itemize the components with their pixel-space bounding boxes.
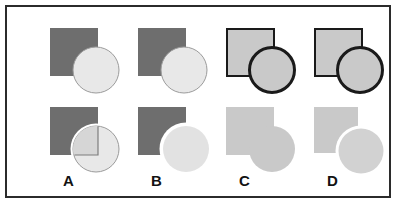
option-panel-b[interactable]: [111, 13, 211, 105]
option-label-b: B: [151, 173, 162, 188]
option-b-bottom-shapes: [111, 99, 211, 179]
option-a-bottom-shapes: [23, 99, 123, 179]
option-d-top-shapes: [287, 13, 387, 101]
option-label-c: C: [239, 173, 250, 188]
option-c-bottom-shapes: [199, 99, 299, 179]
option-d-bottom-shapes: [287, 99, 387, 179]
circle-light: [339, 129, 384, 174]
option-label-a: A: [63, 173, 74, 188]
option-panel-d[interactable]: [287, 13, 387, 105]
circle-light-outlined: [338, 48, 383, 93]
option-panel-a[interactable]: [23, 13, 123, 105]
option-panel-c[interactable]: [199, 13, 299, 105]
figure-root: A B: [0, 0, 411, 217]
option-b-top-shapes: [111, 13, 211, 101]
option-a-top-shapes: [23, 13, 123, 101]
option-c-top-shapes: [199, 13, 299, 101]
option-label-d: D: [327, 173, 338, 188]
figure-frame: A B: [5, 5, 391, 198]
